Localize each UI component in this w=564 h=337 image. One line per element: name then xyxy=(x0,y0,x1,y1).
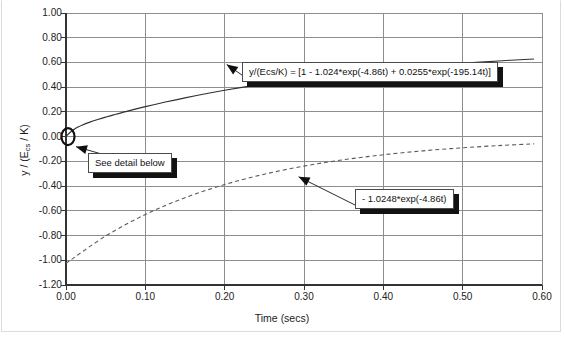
y-axis-title-subscript: cs xyxy=(23,144,32,152)
y-tick-label: 1.00 xyxy=(20,8,62,18)
x-axis-ticks: 0.000.100.200.300.400.500.60 xyxy=(0,292,564,306)
chart-figure: 1.000.800.600.400.200.00-0.20-0.40-0.60-… xyxy=(0,0,564,337)
annotation-equation-full-arrowhead xyxy=(227,64,239,74)
y-tick-label: -1.00 xyxy=(20,255,62,265)
x-tick-label: 0.50 xyxy=(440,292,486,302)
y-tick-label: 0.60 xyxy=(20,57,62,67)
x-axis-title: Time (secs) xyxy=(0,312,564,324)
x-tick-label: 0.00 xyxy=(43,292,89,302)
annotation-see-detail-arrowhead xyxy=(76,145,88,154)
y-tick-label: -1.20 xyxy=(20,280,62,290)
annotation-equation-full: y/(Ecs/K) = [1 - 1.024*exp(-4.86t) + 0.0… xyxy=(242,62,498,82)
y-tick-label: 0.80 xyxy=(20,33,62,43)
y-axis-title: y / (Ecs / K) xyxy=(18,70,30,230)
annotation-see-detail: See detail below xyxy=(88,153,172,173)
y-tick-label: -0.80 xyxy=(20,231,62,241)
x-tick-label: 0.30 xyxy=(281,292,327,302)
x-tick-label: 0.20 xyxy=(202,292,248,302)
x-tick-label: 0.10 xyxy=(122,292,168,302)
annotation-equation-term: - 1.0248*exp(-4.86t) xyxy=(355,189,454,209)
x-tick-label: 0.60 xyxy=(519,292,564,302)
plot-area xyxy=(0,0,564,337)
x-tick-label: 0.40 xyxy=(360,292,406,302)
y-axis-title-main: y / (E xyxy=(18,151,30,176)
y-axis-title-tail: / K) xyxy=(18,124,30,143)
